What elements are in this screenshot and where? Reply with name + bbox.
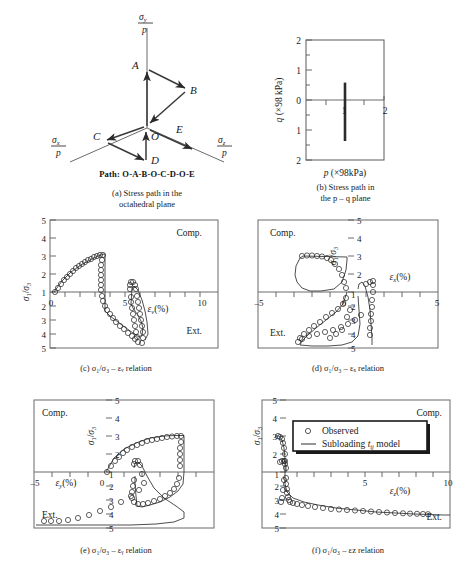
ytick-c-1: 1 — [42, 288, 47, 298]
panel-b-y-ticklabels: 2 1 0 1 2 — [296, 36, 301, 166]
xtick-f-5: 5 — [363, 478, 368, 488]
panel-c-x-ticklabels: 0 5 10 — [49, 298, 207, 308]
ytick-b-0: 2 — [296, 36, 301, 46]
ytick-d-5: 5 — [357, 216, 362, 226]
ytick-e-4: 4 — [115, 414, 120, 424]
sigma-y-denominator: p — [141, 25, 147, 35]
panel-d-x-ticklabels: –5 0 5 — [254, 298, 440, 308]
ytick-f-n3: 3 — [275, 496, 280, 506]
panel-c-region-ext: Ext. — [186, 326, 202, 336]
panel-f-svg: Comp. Ext. Observed Subloading tij model… — [238, 392, 466, 544]
panel-b-pq-plane: 2 1 0 1 2 1 2 q (×98 kPa) p (×98kPa) (b)… — [268, 28, 453, 203]
xtick-f-10: 10 — [444, 478, 454, 488]
caption-e: (e) σ₁/σ₃ – εᵧ relation — [6, 545, 226, 556]
ytick-f-1: 1 — [275, 470, 280, 480]
ytick-c-2: 2 — [42, 270, 47, 280]
ytick-e-n4: 4 — [109, 510, 114, 520]
xtick-d-0: 0 — [342, 298, 347, 308]
panel-d-region-ext: Ext. — [270, 328, 286, 338]
ytick-c-n3: 3 — [42, 316, 47, 326]
xtick-c-0: 0 — [49, 298, 54, 308]
ytick-d-4: 4 — [357, 234, 362, 244]
ytick-d-n3: 3 — [351, 316, 356, 326]
ytick-f-2: 2 — [273, 450, 278, 460]
ytick-d-2: 2 — [357, 270, 362, 280]
legend-model-label: Subloading tij model — [322, 439, 400, 450]
ytick-d-1: 1 — [351, 290, 356, 300]
xtick-b-1: 2 — [383, 106, 388, 116]
ytick-e-n5: 5 — [109, 524, 114, 534]
panel-c-region-comp: Comp. — [176, 228, 202, 238]
axis-label-sigma-y: σy p — [138, 12, 153, 35]
panel-e-svg: Comp. Ext. 5 4 3 2 1 2 3 4 5 –5 0 σ1/σ3 … — [6, 392, 234, 544]
legend-observed-label: Observed — [322, 426, 359, 436]
path-sequence-label: Path: O-A-B-O-C-D-O-E — [52, 169, 242, 179]
panel-b-y-ticks — [306, 40, 312, 160]
xtick-c-5: 5 — [123, 298, 128, 308]
ytick-e-2: 2 — [115, 450, 120, 460]
ytick-b-3: 1 — [296, 126, 301, 136]
panel-c-ylabel: σ1/σ3 — [21, 283, 32, 302]
axis-label-sigma-z: σz p — [217, 135, 232, 158]
panel-a-svg: A B C O E D σy p σx p σz p — [52, 10, 242, 162]
ytick-f-3: 3 — [273, 432, 278, 442]
panel-f-ylabel: σ1/σ3 — [252, 427, 263, 446]
caption-f: (f) σ₁/σ₃ – εᴢ relation — [238, 545, 458, 556]
ytick-d-n5: 5 — [351, 344, 356, 354]
xtick-d-5: 5 — [435, 298, 440, 308]
panel-b-xlabel: p (×98kPa) — [323, 168, 367, 179]
panel-e-frame — [34, 400, 214, 528]
point-label-A: A — [131, 59, 139, 71]
octahedral-point-labels: A B C O E D — [93, 59, 197, 166]
panel-e-region-ext: Ext. — [42, 510, 58, 520]
ytick-c-4: 4 — [42, 234, 47, 244]
panel-d-observed-points — [295, 253, 375, 345]
panel-e-region-comp: Comp. — [42, 408, 68, 418]
ytick-e-n3: 3 — [109, 496, 114, 506]
ytick-f-n5: 5 — [275, 524, 280, 534]
sigma-z-denominator: p — [221, 148, 227, 158]
ytick-d-n4: 4 — [351, 330, 356, 340]
ytick-c-n5: 5 — [42, 344, 47, 354]
panel-a-octahedral: A B C O E D σy p σx p σz p P — [52, 10, 242, 180]
ytick-f-n4: 4 — [275, 510, 280, 520]
caption-b-line1: (b) Stress path in — [268, 182, 423, 193]
panel-d-svg: Comp. Ext. 5 4 3 2 1 2 3 4 5 –5 0 5 σ1/σ… — [238, 212, 466, 362]
ytick-f-n2: 2 — [275, 482, 280, 492]
xtick-b-0: 1 — [342, 106, 347, 116]
panel-c-svg: Comp. Ext. 5 4 3 2 1 2 3 4 5 0 5 10 σ1/σ… — [6, 212, 234, 362]
panel-b-ylabel: q (×98 kPa) — [274, 78, 285, 123]
ytick-c-5: 5 — [42, 216, 47, 226]
panel-f-legend: Observed Subloading tij model — [293, 421, 430, 454]
panel-e: Comp. Ext. 5 4 3 2 1 2 3 4 5 –5 0 σ1/σ3 … — [6, 392, 234, 557]
ytick-f-5: 5 — [273, 396, 278, 406]
panel-c-y-ticklabels: 5 4 3 2 1 2 3 4 5 — [42, 216, 47, 354]
panel-f-x-ticks — [297, 472, 433, 477]
panel-b-x-ticklabels: 1 2 — [342, 106, 388, 116]
ytick-d-3: 3 — [357, 252, 362, 262]
xtick-e-neg5: –5 — [30, 478, 41, 488]
panel-e-xlabel: εy(%) — [56, 478, 77, 489]
ytick-e-5: 5 — [115, 396, 120, 406]
ytick-c-n4: 4 — [42, 330, 47, 340]
panel-c-y-ticks — [50, 220, 56, 348]
ytick-d-n2: 2 — [351, 302, 356, 312]
ytick-e-n2: 2 — [109, 482, 114, 492]
octahedral-axis-labels: σy p σx p σz p — [51, 12, 232, 158]
panel-d: Comp. Ext. 5 4 3 2 1 2 3 4 5 –5 0 5 σ1/σ… — [238, 212, 466, 372]
point-label-E: E — [175, 123, 183, 135]
caption-c: (c) σ₁/σ₃ – εᵥ relation — [6, 363, 226, 374]
panel-e-ylabel: σ1/σ3 — [86, 427, 97, 446]
xtick-c-10: 10 — [198, 298, 208, 308]
xtick-e-0: 0 — [100, 478, 105, 488]
ytick-e-1: 1 — [109, 470, 114, 480]
caption-b-line2: the p – q plane — [268, 193, 423, 204]
panel-f-frame — [262, 400, 450, 528]
panel-f-region-comp: Comp. — [416, 408, 442, 418]
octahedral-path — [107, 70, 192, 160]
panel-f: Comp. Ext. Observed Subloading tij model… — [238, 392, 466, 557]
caption-a-line2: octahedral plane — [52, 199, 242, 210]
panel-f-y-ticklabels: 5 4 3 2 1 2 3 4 5 — [273, 396, 280, 534]
panel-d-xlabel: εx(%) — [390, 272, 411, 283]
panel-f-xlabel: εz(%) — [390, 486, 411, 497]
